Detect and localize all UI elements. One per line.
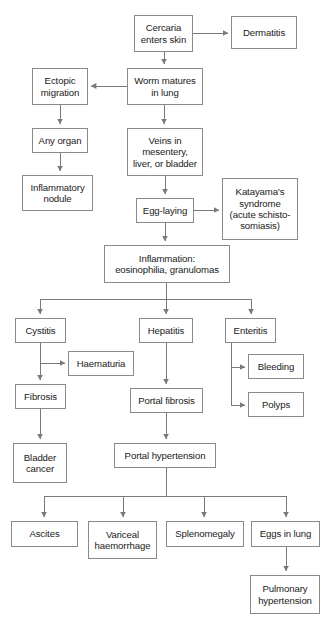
node-enteritis[interactable]: Enteritis bbox=[225, 318, 276, 343]
edge-enteritis-polyps bbox=[231, 343, 245, 405]
node-katayama-syndrome[interactable]: Katayama's syndrome (acute schisto- somi… bbox=[222, 178, 298, 240]
node-hepatitis[interactable]: Hepatitis bbox=[139, 318, 193, 343]
node-cercaria[interactable]: Cercaria enters skin bbox=[134, 15, 193, 52]
node-eggs-in-lung[interactable]: Eggs in lung bbox=[251, 521, 320, 547]
node-bleeding[interactable]: Bleeding bbox=[248, 354, 304, 379]
node-portal-hypertension[interactable]: Portal hypertension bbox=[114, 443, 216, 468]
node-inflammation[interactable]: Inflammation: eosinophilia, granulomas bbox=[104, 245, 230, 283]
node-variceal-haemorrhage[interactable]: Variceal haemorrhage bbox=[88, 521, 157, 559]
node-worm-matures-in-lung[interactable]: Worm matures in lung bbox=[127, 68, 203, 105]
node-bladder-cancer[interactable]: Bladder cancer bbox=[13, 443, 67, 483]
node-haematuria[interactable]: Haematuria bbox=[68, 351, 134, 376]
node-polyps[interactable]: Polyps bbox=[248, 392, 304, 417]
node-fibrosis[interactable]: Fibrosis bbox=[15, 384, 66, 409]
node-cystitis[interactable]: Cystitis bbox=[15, 318, 66, 343]
node-veins-in-mesentery[interactable]: Veins in mesentery, liver, or bladder bbox=[127, 128, 203, 176]
node-portal-fibrosis[interactable]: Portal fibrosis bbox=[130, 388, 203, 413]
edge-enteritis-bleeding bbox=[231, 343, 245, 367]
node-any-organ[interactable]: Any organ bbox=[32, 128, 88, 153]
node-splenomegaly[interactable]: Splenomegaly bbox=[166, 521, 244, 547]
node-inflammatory-nodule[interactable]: Inflammatory nodule bbox=[22, 175, 93, 211]
node-ascites[interactable]: Ascites bbox=[11, 521, 78, 547]
node-ectopic-migration[interactable]: Ectopic migration bbox=[32, 68, 88, 105]
node-egg-laying[interactable]: Egg-laying bbox=[136, 198, 194, 223]
node-dermatitis[interactable]: Dermatitis bbox=[231, 16, 297, 49]
node-pulmonary-hypertension[interactable]: Pulmonary hypertension bbox=[250, 575, 320, 614]
flowchart-canvas: Cercaria enters skin Dermatitis Ectopic … bbox=[0, 0, 333, 627]
